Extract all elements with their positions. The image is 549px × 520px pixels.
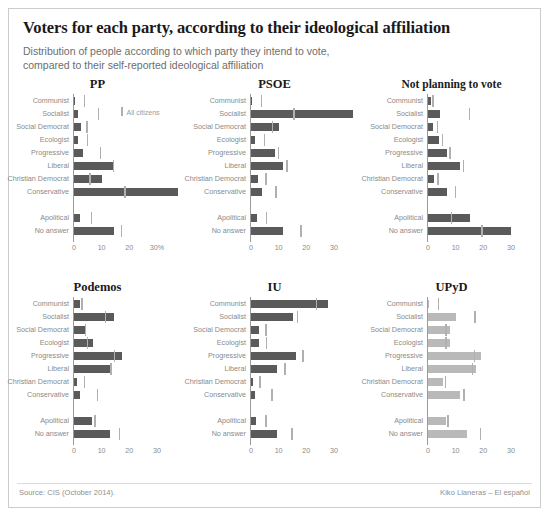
bar-row[interactable]: Ecologist [427, 336, 532, 349]
bar-row[interactable]: Communist [73, 297, 178, 310]
bar-row[interactable]: Apolitical [427, 211, 532, 224]
bar-row[interactable]: Christian Democrat [427, 375, 532, 388]
all-citizens-tick [86, 121, 88, 133]
bar-row[interactable]: No answer [73, 427, 178, 440]
bar-row[interactable]: Christian Democrat [250, 375, 355, 388]
all-citizens-tick [469, 108, 471, 120]
bar-row[interactable]: Christian Democrat [73, 375, 178, 388]
all-citizens-tick [89, 173, 91, 185]
row-spacer [73, 401, 178, 414]
bar-row[interactable]: No answer [427, 427, 532, 440]
bar-row[interactable]: Socialist [250, 310, 355, 323]
bar-row[interactable]: Apolitical [73, 211, 178, 224]
bar-row[interactable]: Ecologist [250, 133, 355, 146]
x-tick-label: 20 [479, 446, 487, 455]
all-citizens-tick [84, 376, 86, 388]
panel-pp: PPCommunistSocialistSocial DemocratEcolo… [9, 71, 186, 274]
bar-row[interactable]: Apolitical [73, 414, 178, 427]
bar-row[interactable]: Christian Democrat [73, 172, 178, 185]
bar-row[interactable]: Progressive [250, 146, 355, 159]
bar [74, 175, 102, 183]
bar-row[interactable]: Communist [250, 94, 355, 107]
bar-row[interactable]: Ecologist [250, 336, 355, 349]
bar-row[interactable]: Social Democrat [73, 120, 178, 133]
bar [74, 123, 81, 131]
bar-row[interactable]: Social Democrat [250, 120, 355, 133]
bar-row[interactable]: Social Democrat [427, 323, 532, 336]
all-citizens-tick [119, 428, 121, 440]
bar-row[interactable]: No answer [427, 224, 532, 237]
row-spacer [250, 401, 355, 414]
bar-row[interactable]: Conservative [73, 388, 178, 401]
bar-row[interactable]: Conservative [427, 388, 532, 401]
bar-row[interactable]: Liberal [73, 362, 178, 375]
bar-row[interactable]: Socialist [73, 310, 178, 323]
bar-row[interactable]: Liberal [73, 159, 178, 172]
bar-row[interactable]: Progressive [250, 349, 355, 362]
row-spacer [73, 198, 178, 211]
all-citizens-tick [451, 212, 453, 224]
bar-row[interactable]: Communist [73, 94, 178, 107]
bar-row[interactable]: Conservative [427, 185, 532, 198]
bar [251, 365, 277, 373]
all-citizens-tick [113, 160, 115, 172]
all-citizens-tick [284, 363, 286, 375]
bar [251, 417, 256, 425]
bar-row[interactable]: Social Democrat [427, 120, 532, 133]
bar-row[interactable]: Apolitical [250, 414, 355, 427]
bar-row[interactable]: Ecologist [427, 133, 532, 146]
all-citizens-tick [302, 350, 304, 362]
bar [428, 365, 476, 373]
bar-row[interactable]: Social Democrat [250, 323, 355, 336]
bar [251, 123, 279, 131]
bar [428, 326, 450, 334]
plot-area: CommunistSocialistSocial DemocratEcologi… [73, 94, 178, 242]
bar-row[interactable]: Progressive [73, 349, 178, 362]
bar-row[interactable]: Conservative [73, 185, 178, 198]
bar-row[interactable]: Socialist [427, 310, 532, 323]
bar-row[interactable]: Progressive [73, 146, 178, 159]
category-label: Communist [387, 94, 423, 107]
chart-page: Voters for each party, according to thei… [0, 0, 549, 520]
x-tick-label: 30% [150, 243, 164, 252]
legend-label: All citizens [127, 109, 160, 116]
bar-row[interactable]: No answer [250, 224, 355, 237]
bar-row[interactable]: Liberal [250, 159, 355, 172]
bar [428, 214, 470, 222]
bar-row[interactable]: Apolitical [427, 414, 532, 427]
all-citizens-tick [100, 147, 102, 159]
bar-row[interactable]: Communist [427, 297, 532, 310]
bar [251, 326, 259, 334]
bar-row[interactable]: Social Democrat [73, 323, 178, 336]
bar [251, 214, 257, 222]
bar-row[interactable]: Socialist [250, 107, 355, 120]
bar-row[interactable]: Communist [427, 94, 532, 107]
x-tick-label: 10 [452, 243, 460, 252]
category-label: Christian Democrat [361, 172, 423, 185]
bar-row[interactable]: Apolitical [250, 211, 355, 224]
panel-psoe: PSOECommunistSocialistSocial DemocratEco… [186, 71, 363, 274]
bar-row[interactable]: Christian Democrat [427, 172, 532, 185]
bar [74, 214, 80, 222]
all-citizens-tick [278, 147, 280, 159]
bar-row[interactable]: Socialist [427, 107, 532, 120]
bar-row[interactable]: Liberal [427, 362, 532, 375]
bar-row[interactable]: Conservative [250, 185, 355, 198]
bar-row[interactable]: Conservative [250, 388, 355, 401]
category-label: Progressive [208, 349, 246, 362]
bar-row[interactable]: Progressive [427, 146, 532, 159]
bar-row[interactable]: Progressive [427, 349, 532, 362]
bar-row[interactable]: Ecologist [73, 133, 178, 146]
bar-row[interactable]: No answer [73, 224, 178, 237]
all-citizens-tick [124, 186, 126, 198]
category-label: Communist [33, 94, 69, 107]
x-tick-label: 20 [125, 446, 133, 455]
bar-row[interactable]: No answer [250, 427, 355, 440]
all-citizens-tick [266, 337, 268, 349]
bar [428, 136, 439, 144]
bar-row[interactable]: Ecologist [73, 336, 178, 349]
bar-row[interactable]: Liberal [427, 159, 532, 172]
bar-row[interactable]: Christian Democrat [250, 172, 355, 185]
bar-row[interactable]: Liberal [250, 362, 355, 375]
bar-row[interactable]: Communist [250, 297, 355, 310]
